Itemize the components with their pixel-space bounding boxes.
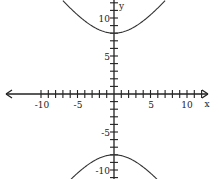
y-tick-label: -10 (96, 166, 111, 176)
x-tick-label: 10 (181, 100, 193, 110)
y-tick-label: -5 (101, 128, 110, 138)
x-tick-label: 5 (148, 100, 154, 110)
y-tick-label: 5 (104, 52, 110, 62)
x-axis: -10 -5 5 10 x (6, 90, 210, 110)
x-tick-label: -10 (35, 100, 50, 110)
x-axis-label: x (204, 99, 209, 109)
hyperbola-graph: -10 -5 5 10 x 10 5 -5 -10 y (0, 0, 219, 179)
y-axis-label: y (118, 1, 125, 11)
y-tick-label: 10 (99, 14, 111, 24)
x-tick-label: -5 (74, 100, 83, 110)
y-axis: 10 5 -5 -10 y (96, 0, 126, 179)
